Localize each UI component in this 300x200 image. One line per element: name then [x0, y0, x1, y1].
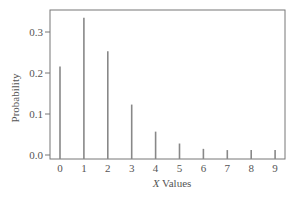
x-axis-label: X Values: [152, 177, 192, 189]
x-tick-label: 4: [153, 162, 159, 174]
y-tick-label: 0.0: [29, 149, 43, 161]
y-axis-label: Probability: [9, 73, 21, 122]
x-tick-label: 8: [248, 162, 254, 174]
plot-border: [50, 10, 285, 159]
y-tick-label: 0.1: [29, 108, 43, 120]
x-tick-label: 7: [225, 162, 231, 174]
x-tick-label: 2: [105, 162, 111, 174]
probability-stem-chart: 0.00.10.20.3 0123456789 Probability X Va…: [0, 0, 300, 200]
x-tick-label: 1: [81, 162, 87, 174]
x-tick-label: 6: [201, 162, 207, 174]
y-tick-label: 0.3: [29, 26, 43, 38]
x-tick-label: 3: [129, 162, 135, 174]
bars: [60, 18, 275, 159]
x-tick-label: 0: [57, 162, 63, 174]
y-axis-ticks: 0.00.10.20.3: [29, 26, 50, 161]
x-tick-label: 5: [177, 162, 183, 174]
plot-frame: [50, 10, 285, 159]
x-tick-label: 9: [272, 162, 278, 174]
x-axis-ticks: 0123456789: [57, 162, 278, 174]
y-tick-label: 0.2: [29, 67, 43, 79]
